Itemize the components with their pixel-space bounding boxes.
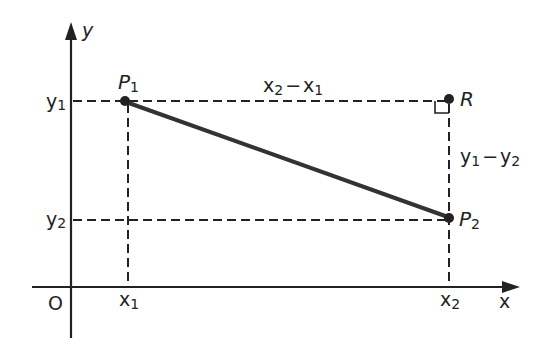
point-p2 <box>444 213 454 223</box>
origin-label: O <box>48 292 63 314</box>
horizontal-distance-label: x2−x1 <box>263 74 323 98</box>
y2-tick-label: y2 <box>46 208 66 231</box>
dashed-guides <box>73 101 449 286</box>
distance-diagram: y x O y1 y2 x1 x2 P1 P2 R x2−x1 y1−y2 <box>0 0 548 356</box>
point-r <box>444 94 454 104</box>
p1-label: P1 <box>118 70 139 95</box>
p2-label: P2 <box>459 207 480 232</box>
x1-tick-label: x1 <box>119 288 139 312</box>
x2-tick-label: x2 <box>440 288 460 312</box>
segment-p1-p2 <box>126 102 448 217</box>
x-axis-label: x <box>499 290 510 312</box>
vertical-distance-label: y1−y2 <box>460 145 520 169</box>
r-label: R <box>460 87 474 111</box>
y1-tick-label: y1 <box>46 90 66 113</box>
point-p1 <box>120 96 130 106</box>
y-axis-arrow-icon <box>65 22 77 40</box>
y-axis-label: y <box>81 19 94 41</box>
